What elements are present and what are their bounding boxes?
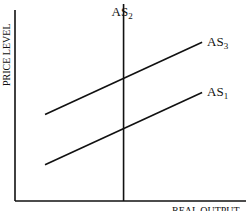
- chart: PRICE LEVEL REAL OUTPUT AS1AS2AS3: [0, 0, 246, 211]
- y-axis-label: PRICE LEVEL: [1, 24, 12, 87]
- series-label-as2: AS2: [112, 4, 133, 21]
- series-label-as1: AS1: [207, 84, 228, 101]
- x-axis-label: REAL OUTPUT: [172, 205, 240, 211]
- series-label-as3: AS3: [207, 34, 229, 51]
